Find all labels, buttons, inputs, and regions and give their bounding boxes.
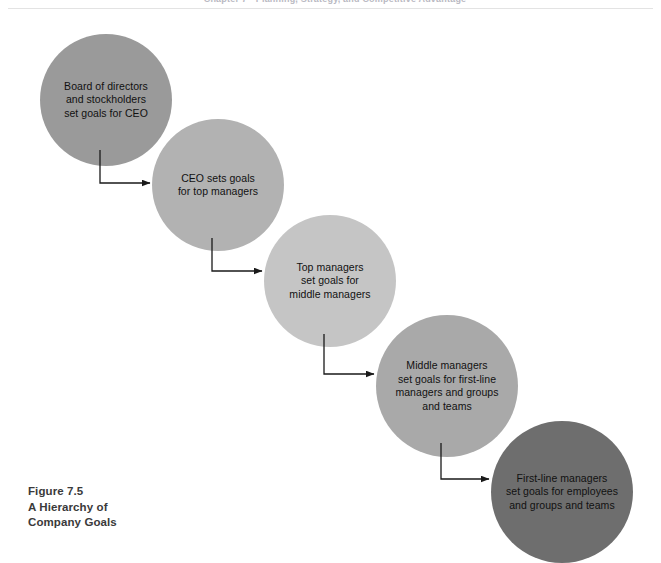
goal-node-first-line-managers: First-line managers set goals for employ… <box>491 421 633 563</box>
figure-caption-line-number: Figure 7.5 <box>28 484 248 500</box>
goal-node-label-middle-managers: Middle managers set goals for first-line… <box>389 359 504 413</box>
goal-node-top-managers: Top managers set goals for middle manage… <box>264 215 396 347</box>
goal-node-ceo: CEO sets goals for top managers <box>152 119 284 251</box>
page-header-divider <box>8 8 653 9</box>
page-running-head-text: Chapter 7 • Planning, Strategy, and Comp… <box>120 0 550 4</box>
goal-node-board-of-directors: Board of directors and stockholders set … <box>40 34 172 166</box>
goal-node-label-top-managers: Top managers set goals for middle manage… <box>283 261 376 302</box>
figure-caption-line-title-2: Company Goals <box>28 515 248 531</box>
figure-caption-line-title-1: A Hierarchy of <box>28 500 248 516</box>
goal-node-label-ceo: CEO sets goals for top managers <box>172 172 264 199</box>
figure-caption: Figure 7.5 A Hierarchy of Company Goals <box>28 484 248 531</box>
goal-node-label-board-of-directors: Board of directors and stockholders set … <box>58 80 154 121</box>
goal-node-label-first-line-managers: First-line managers set goals for employ… <box>500 472 624 513</box>
goal-node-middle-managers: Middle managers set goals for first-line… <box>376 315 518 457</box>
